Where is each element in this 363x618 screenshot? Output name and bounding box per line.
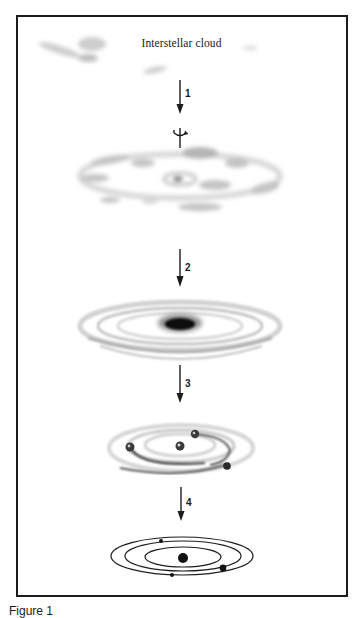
step-label-4: 4 (186, 497, 192, 508)
step-label-1: 1 (185, 88, 191, 99)
planet (170, 573, 174, 577)
planet (220, 565, 227, 572)
interstellar-cloud (38, 37, 258, 75)
collapsing-cloud (80, 147, 281, 211)
down-arrow-icon (178, 487, 185, 521)
accretion-disk (80, 302, 280, 359)
rotation-axis-icon (174, 128, 189, 148)
down-arrow-icon (177, 249, 184, 287)
protoplanetary-system (109, 425, 253, 473)
planetary-system (111, 537, 253, 577)
planet (159, 539, 163, 543)
figure-caption: Figure 1 (9, 604, 53, 618)
down-arrow-icon (177, 80, 184, 114)
step-label-2: 2 (185, 262, 191, 273)
step-label-3: 3 (185, 378, 191, 389)
sun (178, 553, 188, 563)
down-arrow-icon (177, 365, 184, 403)
